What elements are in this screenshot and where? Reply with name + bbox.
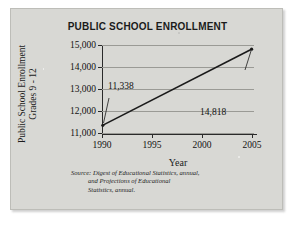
x-axis-title: Year xyxy=(102,157,254,168)
source-note: Source: Digest of Educational Statistics… xyxy=(71,169,271,194)
y-axis-title-line-2: Grades 9 - 12 xyxy=(28,39,39,149)
y-axis-title: Public School Enrollment Grades 9 - 12 xyxy=(17,39,39,149)
x-tick-label-2005: 2005 xyxy=(243,140,262,150)
x-tick-label-1990: 1990 xyxy=(93,140,112,150)
y-tick-label-11000: 11,000 xyxy=(70,128,96,138)
chart-figure-panel: PUBLIC SCHOOL ENROLLMENT Public School E… xyxy=(10,8,283,210)
data-label-14818: 14,818 xyxy=(200,107,226,117)
x-tick-label-2000: 2000 xyxy=(193,140,212,150)
y-tick-label-12000: 12,000 xyxy=(70,106,96,116)
plot-area: 15,000 14,000 13,000 12,000 11,000 1990 … xyxy=(102,45,254,134)
x-tick-label-1995: 1995 xyxy=(143,140,162,150)
chart-title: PUBLIC SCHOOL ENROLLMENT xyxy=(11,21,284,32)
y-tick-label-15000: 15,000 xyxy=(70,40,96,50)
source-note-line-3: Statistics, annual. xyxy=(71,186,271,194)
y-axis-title-line-1: Public School Enrollment xyxy=(17,39,28,149)
source-note-line-1: Source: Digest of Educational Statistics… xyxy=(71,169,271,177)
data-point-2005 xyxy=(250,48,253,51)
data-point-1990 xyxy=(101,124,104,127)
leader-line-start xyxy=(104,98,110,123)
source-note-line-2: and Projections of Educational xyxy=(71,177,271,185)
y-tick-label-13000: 13,000 xyxy=(70,84,96,94)
data-label-11338: 11,338 xyxy=(108,81,134,91)
leader-line-end xyxy=(245,51,251,70)
y-tick-label-14000: 14,000 xyxy=(70,62,96,72)
